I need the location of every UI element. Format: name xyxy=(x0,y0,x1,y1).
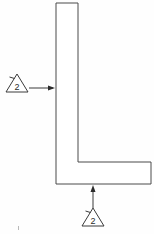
scan-artifact-mark xyxy=(18,226,19,230)
callout-bottom-group[interactable]: 2 xyxy=(82,185,104,226)
callout-left-arrow-head xyxy=(48,86,55,91)
technical-drawing-canvas: 2 2 xyxy=(0,0,154,234)
callout-bottom-arrow-head xyxy=(91,185,96,192)
callout-left-group[interactable]: 2 xyxy=(6,74,55,92)
callout-left-tick-icon xyxy=(10,77,15,79)
callout-bottom-tick-icon xyxy=(86,211,91,213)
drawing-svg: 2 2 xyxy=(0,0,154,234)
callout-bottom-label: 2 xyxy=(90,216,95,226)
callout-left-label: 2 xyxy=(14,82,19,92)
l-profile-part-outline xyxy=(56,3,151,184)
